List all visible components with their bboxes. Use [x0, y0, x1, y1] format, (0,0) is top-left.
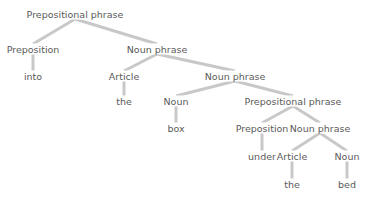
- word-box: box: [166, 123, 185, 134]
- node-prepositional-phrase-root: Prepositional phrase: [26, 9, 125, 20]
- tree-edge: [293, 106, 320, 123]
- tree-edge: [33, 19, 75, 44]
- tree-edge: [320, 133, 347, 151]
- word-the-2: the: [283, 179, 301, 190]
- word-under: under: [247, 151, 277, 162]
- word-into: into: [23, 71, 43, 82]
- node-preposition-2: Preposition: [235, 123, 290, 134]
- node-article-2: Article: [276, 151, 308, 162]
- word-the-1: the: [115, 96, 133, 107]
- node-preposition-1: Preposition: [6, 44, 61, 55]
- tree-edge: [157, 54, 235, 71]
- tree-edge: [75, 19, 157, 44]
- node-noun-phrase-1: Noun phrase: [126, 44, 189, 55]
- node-article-1: Article: [108, 71, 140, 82]
- tree-edge: [262, 106, 293, 123]
- tree-edge: [235, 81, 293, 96]
- tree-edge: [124, 54, 157, 71]
- node-noun-2: Noun: [334, 151, 361, 162]
- node-prepositional-phrase-2: Prepositional phrase: [244, 96, 343, 107]
- node-noun-phrase-3: Noun phrase: [289, 123, 352, 134]
- node-noun-1: Noun: [163, 96, 190, 107]
- tree-edge: [176, 81, 235, 96]
- tree-edge: [292, 133, 320, 151]
- node-noun-phrase-2: Noun phrase: [204, 71, 267, 82]
- word-bed: bed: [337, 179, 357, 190]
